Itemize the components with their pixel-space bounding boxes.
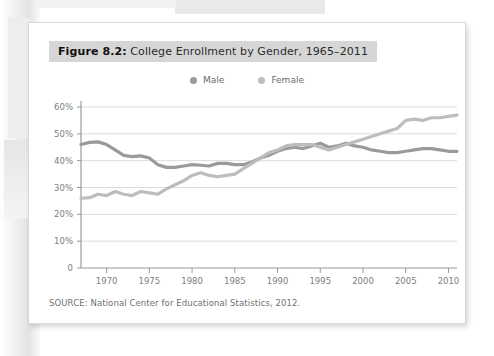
svg-text:30%: 30% [54, 183, 73, 193]
chart-y-axis: 010%20%30%40%50%60% [54, 101, 81, 273]
svg-text:1980: 1980 [181, 276, 203, 286]
scan-artifact-band [175, 0, 325, 14]
svg-text:60%: 60% [54, 102, 73, 112]
chart-legend: Male Female [29, 75, 465, 85]
svg-text:1985: 1985 [224, 276, 246, 286]
legend-dot-icon [258, 77, 265, 84]
svg-text:2010: 2010 [438, 276, 460, 286]
figure-title: College Enrollment by Gender, 1965–2011 [127, 45, 368, 58]
scan-artifact-strip [4, 140, 30, 218]
svg-text:10%: 10% [54, 236, 73, 246]
svg-text:40%: 40% [54, 156, 73, 166]
svg-text:50%: 50% [54, 129, 73, 139]
figure-card: Figure 8.2: College Enrollment by Gender… [28, 22, 466, 324]
chart-plot-area: 010%20%30%40%50%60% 19701975198019851990… [29, 93, 465, 298]
legend-item-male[interactable]: Male [190, 75, 224, 85]
svg-text:20%: 20% [54, 209, 73, 219]
svg-text:1995: 1995 [309, 276, 331, 286]
line-chart-svg: 010%20%30%40%50%60% 19701975198019851990… [29, 93, 465, 298]
legend-item-female[interactable]: Female [258, 75, 304, 85]
svg-text:2000: 2000 [352, 276, 374, 286]
figure-number: Figure 8.2: [58, 45, 127, 58]
figure-caption: Figure 8.2: College Enrollment by Gender… [49, 41, 377, 62]
svg-text:1975: 1975 [139, 276, 161, 286]
legend-dot-icon [190, 77, 197, 84]
chart-x-axis: 197019751980198519901995200020052010 [81, 268, 459, 286]
source-note: SOURCE: National Center for Educational … [49, 298, 300, 308]
scan-artifact-strip [8, 18, 30, 138]
svg-text:2005: 2005 [395, 276, 417, 286]
chart-series-lines [81, 115, 457, 198]
legend-label-male: Male [203, 75, 224, 85]
svg-text:0: 0 [68, 263, 73, 273]
svg-text:1970: 1970 [96, 276, 118, 286]
legend-label-female: Female [271, 75, 304, 85]
figure-caption-text: Figure 8.2: College Enrollment by Gender… [58, 45, 368, 58]
scan-artifact-band [36, 0, 176, 8]
svg-text:1990: 1990 [267, 276, 289, 286]
